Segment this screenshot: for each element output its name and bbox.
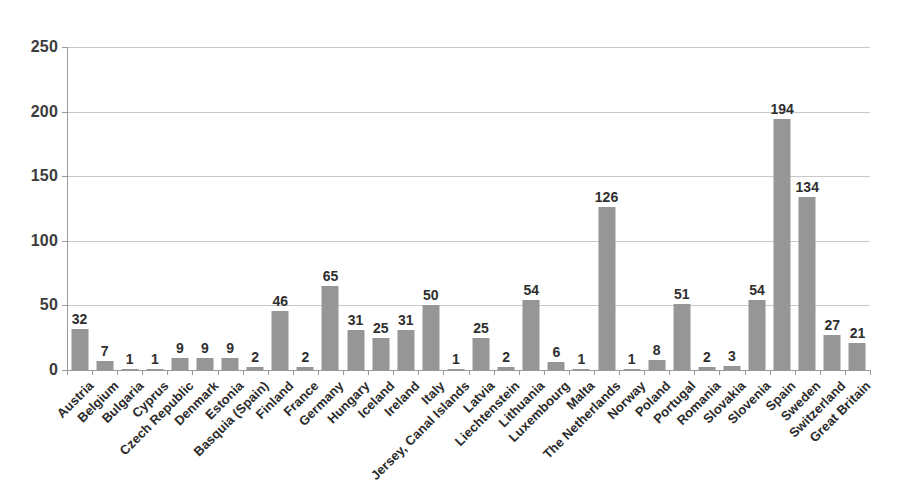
bar-group: 21 bbox=[845, 47, 870, 370]
bar bbox=[473, 338, 490, 370]
bar-group: 2 bbox=[243, 47, 268, 370]
y-axis-tick-label: 50 bbox=[40, 296, 58, 314]
bar-group: 2 bbox=[293, 47, 318, 370]
bar bbox=[824, 335, 841, 370]
bar-value-label: 134 bbox=[796, 179, 819, 195]
bar-value-label: 8 bbox=[653, 342, 661, 358]
x-axis-tick-mark bbox=[669, 370, 670, 375]
x-axis-tick-mark bbox=[795, 370, 796, 375]
x-axis-tick-mark bbox=[494, 370, 495, 375]
x-axis-tick-mark bbox=[293, 370, 294, 375]
x-axis-tick-mark bbox=[393, 370, 394, 375]
x-axis-tick-mark bbox=[469, 370, 470, 375]
x-axis-tick-mark bbox=[167, 370, 168, 375]
bar bbox=[322, 286, 339, 370]
bar-value-label: 27 bbox=[825, 317, 841, 333]
bar bbox=[774, 119, 791, 370]
bar-series: 3271199924626531253150125254611261851235… bbox=[67, 47, 870, 370]
bar-chart: 050100150200250 327119992462653125315012… bbox=[0, 0, 902, 503]
bar-group: 31 bbox=[343, 47, 368, 370]
bar-group: 25 bbox=[469, 47, 494, 370]
x-axis-tick-mark bbox=[619, 370, 620, 375]
x-axis-tick-mark bbox=[192, 370, 193, 375]
bar-group: 9 bbox=[192, 47, 217, 370]
bar-group: 31 bbox=[393, 47, 418, 370]
bar-group: 50 bbox=[418, 47, 443, 370]
bar-value-label: 6 bbox=[552, 344, 560, 360]
x-axis-tick-mark bbox=[544, 370, 545, 375]
bar-group: 134 bbox=[795, 47, 820, 370]
x-axis-tick-mark bbox=[644, 370, 645, 375]
bar-value-label: 31 bbox=[348, 312, 364, 328]
bar-group: 6 bbox=[544, 47, 569, 370]
x-axis-tick-mark bbox=[443, 370, 444, 375]
bar-group: 2 bbox=[694, 47, 719, 370]
bar-value-label: 9 bbox=[176, 340, 184, 356]
bar bbox=[598, 207, 615, 370]
bar bbox=[372, 338, 389, 370]
bar bbox=[397, 330, 414, 370]
bar-group: 2 bbox=[494, 47, 519, 370]
x-axis-tick-mark bbox=[770, 370, 771, 375]
bar bbox=[121, 369, 138, 371]
bar bbox=[849, 343, 866, 370]
bar bbox=[623, 369, 640, 371]
bar bbox=[498, 367, 515, 370]
y-axis-tick-label: 200 bbox=[31, 103, 58, 121]
bar-value-label: 54 bbox=[523, 282, 539, 298]
x-axis-tick-mark bbox=[218, 370, 219, 375]
bar bbox=[297, 367, 314, 370]
x-axis-tick-mark bbox=[594, 370, 595, 375]
y-axis-tick-label: 150 bbox=[31, 167, 58, 185]
x-axis-tick-mark bbox=[870, 370, 871, 375]
bar bbox=[272, 311, 289, 370]
bar-value-label: 9 bbox=[201, 340, 209, 356]
bar-group: 25 bbox=[368, 47, 393, 370]
bar bbox=[698, 367, 715, 370]
bar bbox=[71, 329, 88, 370]
bar-group: 65 bbox=[318, 47, 343, 370]
bar-group: 1 bbox=[443, 47, 468, 370]
x-axis-tick-mark bbox=[845, 370, 846, 375]
bar-group: 54 bbox=[745, 47, 770, 370]
x-axis-tick-mark bbox=[694, 370, 695, 375]
bar-value-label: 50 bbox=[423, 287, 439, 303]
x-axis-tick-mark bbox=[92, 370, 93, 375]
bar-value-label: 2 bbox=[251, 349, 259, 365]
x-axis-tick-mark bbox=[142, 370, 143, 375]
x-axis-tick-mark bbox=[318, 370, 319, 375]
bar bbox=[573, 369, 590, 371]
bar bbox=[799, 197, 816, 370]
x-axis-tick-mark bbox=[745, 370, 746, 375]
bar bbox=[197, 358, 214, 370]
bar-value-label: 1 bbox=[628, 351, 636, 367]
y-axis-tick-label: 250 bbox=[31, 38, 58, 56]
x-axis-tick-mark bbox=[117, 370, 118, 375]
bar-group: 27 bbox=[820, 47, 845, 370]
bar-value-label: 65 bbox=[323, 268, 339, 284]
bar bbox=[749, 300, 766, 370]
bar-value-label: 194 bbox=[770, 101, 793, 117]
x-axis-tick-mark bbox=[67, 370, 68, 375]
bar bbox=[523, 300, 540, 370]
x-axis-tick-mark bbox=[820, 370, 821, 375]
bar-value-label: 2 bbox=[703, 349, 711, 365]
bar bbox=[673, 304, 690, 370]
bar-value-label: 54 bbox=[749, 282, 765, 298]
x-axis-tick-mark bbox=[268, 370, 269, 375]
bar-value-label: 1 bbox=[126, 351, 134, 367]
bar-value-label: 25 bbox=[473, 320, 489, 336]
x-axis-tick-mark bbox=[519, 370, 520, 375]
bar-group: 8 bbox=[644, 47, 669, 370]
bar-group: 7 bbox=[92, 47, 117, 370]
bar-group: 126 bbox=[594, 47, 619, 370]
bar bbox=[146, 369, 163, 371]
x-axis-tick-mark bbox=[343, 370, 344, 375]
bar-value-label: 51 bbox=[674, 286, 690, 302]
bar-group: 32 bbox=[67, 47, 92, 370]
bar-value-label: 126 bbox=[595, 189, 618, 205]
x-axis-labels: AustriaBelgiumBulgariaCyprusCzech Republ… bbox=[67, 378, 870, 503]
bar-group: 9 bbox=[218, 47, 243, 370]
bar-value-label: 1 bbox=[151, 351, 159, 367]
bar-value-label: 21 bbox=[850, 325, 866, 341]
